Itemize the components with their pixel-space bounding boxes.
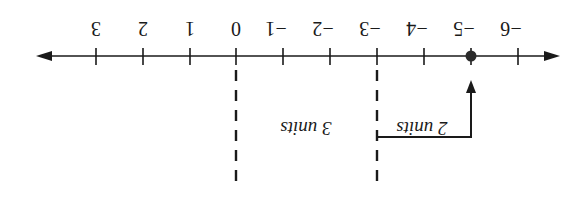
right-arrow-icon <box>544 51 560 61</box>
tick-label: −3 <box>359 18 380 40</box>
tick-label: 3 <box>91 18 101 40</box>
tick-labels: 3 2 1 0 −1 −2 −3 −4 −5 −6 <box>91 18 522 40</box>
number-line-svg: 3 2 1 0 −1 −2 −3 −4 −5 −6 3 units 2 unit… <box>0 0 583 208</box>
tick-label: −6 <box>500 18 521 40</box>
up-arrow-icon <box>466 80 476 93</box>
tick-label: 2 <box>138 18 148 40</box>
left-arrow-icon <box>36 51 52 61</box>
tick-label: −4 <box>406 18 427 40</box>
highlighted-point <box>466 51 477 62</box>
tick-label: −1 <box>265 18 286 40</box>
three-units-label: 3 units <box>280 118 332 139</box>
tick-label: 1 <box>185 18 195 40</box>
tick-label: −2 <box>312 18 333 40</box>
tick-label: −5 <box>453 18 474 40</box>
number-line-diagram: 3 2 1 0 −1 −2 −3 −4 −5 −6 3 units 2 unit… <box>0 0 583 208</box>
tick-label: 0 <box>231 18 241 40</box>
two-units-label: 2 units <box>396 118 447 139</box>
